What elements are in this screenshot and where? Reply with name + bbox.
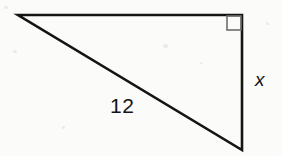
hypotenuse-length-label: 12 <box>110 95 134 116</box>
vertical-leg-variable-label: x <box>255 70 265 89</box>
triangle-outline <box>18 15 242 150</box>
geometry-figure: 12 x <box>0 0 282 156</box>
triangle-svg <box>0 0 282 156</box>
right-angle-marker-icon <box>227 16 241 30</box>
